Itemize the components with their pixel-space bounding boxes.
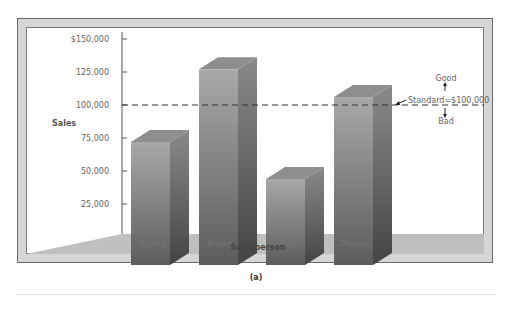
y-tick-label: $150,000 — [71, 35, 109, 44]
bar-brown — [199, 57, 257, 265]
good-label: Good — [435, 74, 456, 83]
figure-caption: (a) — [0, 273, 512, 282]
y-axis-label: Sales — [52, 119, 76, 128]
y-tick-label: 125,000 — [76, 68, 109, 77]
bar-series — [131, 57, 392, 265]
bar-chart: 25,00050,00075,000100,000125,000$150,000… — [0, 0, 512, 318]
y-tick-label: 100,000 — [76, 101, 109, 110]
y-axis-ticks — [122, 39, 127, 204]
bar-thomas — [334, 85, 392, 265]
x-tick-label: Adams — [139, 240, 166, 249]
y-axis-tick-labels: 25,00050,00075,000100,000125,000$150,000 — [71, 35, 109, 209]
x-tick-label: Thomas — [339, 240, 372, 249]
y-tick-label: 25,000 — [81, 200, 109, 209]
x-axis-label: Salesperson — [230, 243, 285, 252]
standard-label: Standard=$100,000 — [408, 96, 489, 105]
bad-label: Bad — [438, 117, 453, 126]
x-tick-label: Brown — [208, 240, 233, 249]
divider — [17, 294, 495, 295]
y-tick-label: 75,000 — [81, 134, 109, 143]
y-tick-label: 50,000 — [81, 167, 109, 176]
